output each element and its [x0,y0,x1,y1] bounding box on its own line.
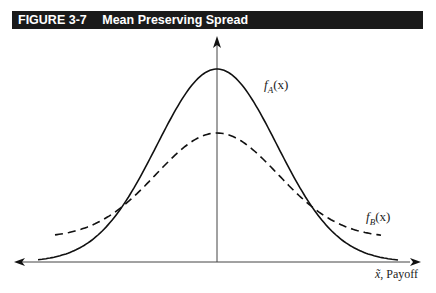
x-axis-right-arrow-icon [410,258,421,266]
label-fB: fB(x) [366,209,390,227]
curve-fB-dashed [55,133,381,235]
x-axis-label: x̃, Payoff [375,267,418,282]
curve-fA-solid [38,69,398,260]
label-fA: fA(x) [264,77,288,95]
chart-plot [0,0,436,293]
